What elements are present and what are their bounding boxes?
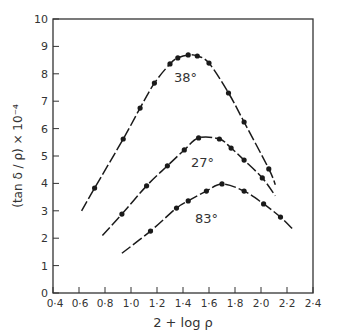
x-tick-label: 0·8 [97,297,114,309]
data-point [92,185,97,190]
y-tick-label: 8 [41,68,48,81]
data-point [278,215,283,220]
y-axis-label: (tan δ / ρ) × 10⁻⁴ [11,104,25,208]
series-38-deg: 38° [82,52,276,211]
data-point [196,135,201,140]
data-point [144,183,149,188]
y-tick-label: 10 [34,13,48,26]
x-tick-label: 2·4 [305,297,322,309]
data-point [148,228,153,233]
x-tick-label: 0·6 [72,297,89,309]
series-label: 27° [191,155,214,170]
x-tick-label: 1·2 [149,297,166,309]
y-tick-label: 0 [41,287,48,300]
data-point [175,55,180,60]
data-point [119,211,124,216]
series-27-deg: 27° [102,135,275,235]
y-tick-label: 3 [41,205,48,218]
x-tick-label: 2·2 [279,297,296,309]
data-point [186,52,191,57]
x-axis-label: 2 + log ρ [153,315,213,330]
data-point [242,158,247,163]
data-point [121,136,126,141]
series-line [102,137,275,235]
data-point [195,53,200,58]
x-tick-label: 2·0 [253,297,270,309]
data-point [266,166,271,171]
series-label: 38° [174,70,197,85]
y-tick-label: 6 [41,123,48,136]
x-tick-label: 1·8 [227,297,244,309]
x-tick-label: 1·6 [201,297,218,309]
data-point [226,90,231,95]
y-tick-label: 2 [41,232,48,245]
data-point [206,61,211,66]
data-point [217,136,222,141]
series-83-deg: 83° [122,181,294,253]
data-point [261,201,266,206]
data-point [260,175,265,180]
data-point [186,198,191,203]
data-point [204,188,209,193]
x-tick-label: 1·0 [123,297,140,309]
y-tick-label: 1 [41,260,48,273]
series-label: 83° [195,211,218,226]
data-point [242,119,247,124]
data-point [167,61,172,66]
plot-frame [53,19,313,293]
data-point [219,181,224,186]
data-point [165,163,170,168]
data-point [229,145,234,150]
data-point [182,147,187,152]
x-tick-label: 0·4 [47,297,64,309]
y-tick-label: 5 [41,150,48,163]
y-tick-label: 7 [41,95,48,108]
x-tick-label: 1·4 [175,297,192,309]
data-point [174,205,179,210]
data-point [138,105,143,110]
y-tick-label: 4 [41,177,48,190]
chart: 0·40·60·81·01·21·41·61·82·02·22·40123456… [0,0,338,336]
data-point [152,81,157,86]
data-point [242,188,247,193]
series-group: 38°27°83° [82,52,294,253]
y-tick-label: 9 [41,40,48,53]
